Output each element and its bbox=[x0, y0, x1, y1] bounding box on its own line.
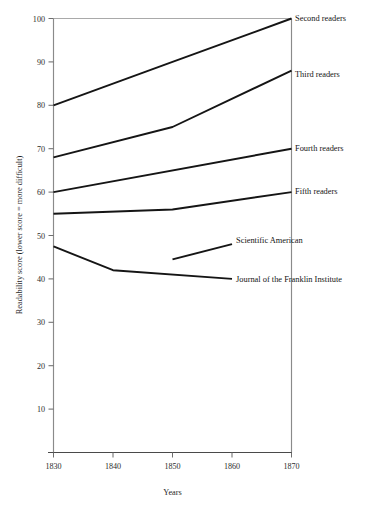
series-label-third-readers: Third readers bbox=[295, 70, 340, 79]
series-line-third-readers bbox=[54, 71, 292, 158]
series-label-journal-franklin-institute: Journal of the Franklin Institute bbox=[236, 275, 342, 284]
series-label-fourth-readers: Fourth readers bbox=[295, 144, 344, 153]
xtick-label-1840: 1840 bbox=[105, 462, 121, 471]
series-label-second-readers: Second readers bbox=[295, 14, 346, 23]
series-label-fifth-readers: Fifth readers bbox=[295, 187, 338, 196]
ytick-label-80: 80 bbox=[37, 101, 45, 110]
ytick-label-10: 10 bbox=[37, 405, 45, 414]
ytick-label-50: 50 bbox=[37, 232, 45, 241]
y-axis-title: Readability score (lower score = more di… bbox=[15, 156, 24, 315]
xtick-label-1870: 1870 bbox=[283, 462, 299, 471]
series-line-second-readers bbox=[54, 19, 292, 106]
chart-canvas: 100 90 80 70 60 50 40 30 20 10 1830 1840… bbox=[0, 0, 386, 513]
x-tick-marks bbox=[54, 453, 292, 458]
x-axis-title: Years bbox=[163, 488, 182, 497]
xtick-label-1830: 1830 bbox=[45, 462, 61, 471]
series-line-fifth-readers bbox=[54, 192, 292, 214]
series-line-fourth-readers bbox=[54, 149, 292, 192]
ytick-label-40: 40 bbox=[37, 275, 45, 284]
ytick-label-70: 70 bbox=[37, 145, 45, 154]
y-tick-marks bbox=[49, 19, 54, 410]
ytick-label-30: 30 bbox=[37, 318, 45, 327]
ytick-label-100: 100 bbox=[33, 15, 45, 24]
readability-line-chart: 100 90 80 70 60 50 40 30 20 10 1830 1840… bbox=[0, 0, 386, 513]
ytick-label-60: 60 bbox=[37, 188, 45, 197]
xtick-label-1860: 1860 bbox=[224, 462, 240, 471]
xtick-label-1850: 1850 bbox=[164, 462, 180, 471]
ytick-label-20: 20 bbox=[37, 362, 45, 371]
series-line-scientific-american bbox=[173, 244, 233, 259]
ytick-label-90: 90 bbox=[37, 58, 45, 67]
series-label-scientific-american: Scientific American bbox=[236, 236, 304, 245]
